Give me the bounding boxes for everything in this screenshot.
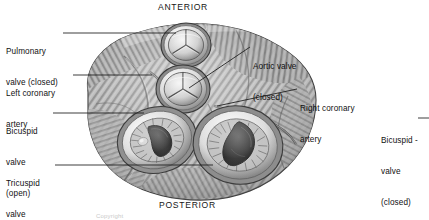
label-bicuspid-valve-closed-line2: valve	[381, 167, 418, 177]
label-bicuspid-valve-open-line1: Bicuspid	[6, 127, 38, 137]
label-tricuspid-valve-open-line2: valve	[6, 210, 40, 220]
label-tricuspid-valve-open-line1: Tricuspid	[6, 179, 40, 189]
label-right-coronary-artery-line2: artery	[300, 135, 355, 145]
label-right-coronary-artery: Right coronary artery	[300, 84, 355, 155]
heart-valves-diagram	[0, 0, 429, 220]
pulmonary-valve	[161, 23, 211, 67]
label-aortic-valve-line2: (closed)	[253, 93, 297, 103]
label-bicuspid-valve-closed-line1: Bicuspid -	[381, 136, 418, 146]
label-right-coronary-artery-line1: Right coronary	[300, 104, 355, 114]
label-tricuspid-valve-open: Tricuspid valve (open)	[6, 159, 40, 220]
orientation-posterior: POSTERIOR	[159, 200, 216, 210]
label-bicuspid-valve-closed-line3: (closed)	[381, 198, 418, 208]
label-pulmonary-valve-line1: Pulmonary	[6, 47, 58, 57]
label-aortic-valve-line1: Aortic valve	[253, 62, 297, 72]
aortic-valve	[156, 65, 210, 113]
orientation-anterior: ANTERIOR	[158, 2, 208, 12]
label-left-coronary-artery-line1: Left coronary	[6, 89, 55, 99]
figure-caption-partial: Copyright	[96, 213, 123, 219]
label-bicuspid-valve-closed: Bicuspid - valve (closed)	[381, 116, 418, 218]
label-aortic-valve: Aortic valve (closed)	[253, 42, 297, 113]
